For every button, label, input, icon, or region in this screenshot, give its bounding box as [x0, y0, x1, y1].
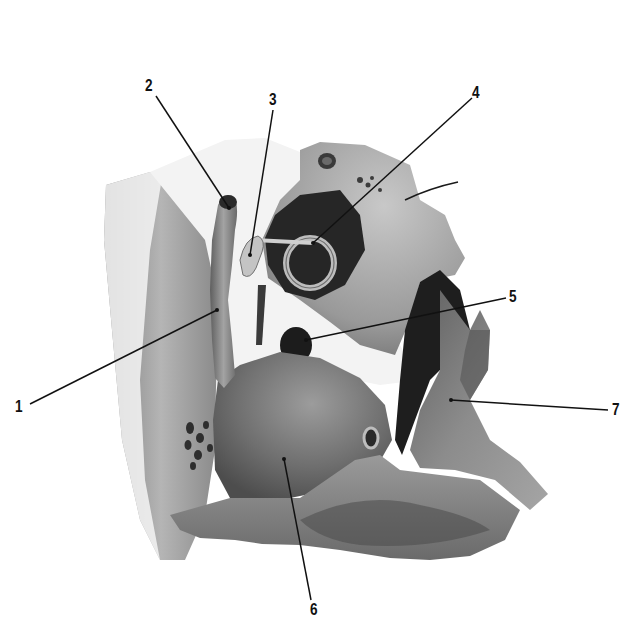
small-canal-opening [364, 428, 378, 448]
callout-label-7: 7 [612, 401, 620, 418]
anatomical-illustration [0, 0, 640, 642]
callout-label-2: 2 [145, 77, 153, 94]
callout-label-4: 4 [472, 84, 480, 101]
callout-label-3: 3 [269, 91, 277, 108]
callout-label-5: 5 [509, 288, 517, 305]
callout-label-1: 1 [15, 398, 23, 415]
leader-7 [451, 400, 608, 410]
callout-label-6: 6 [310, 601, 318, 618]
